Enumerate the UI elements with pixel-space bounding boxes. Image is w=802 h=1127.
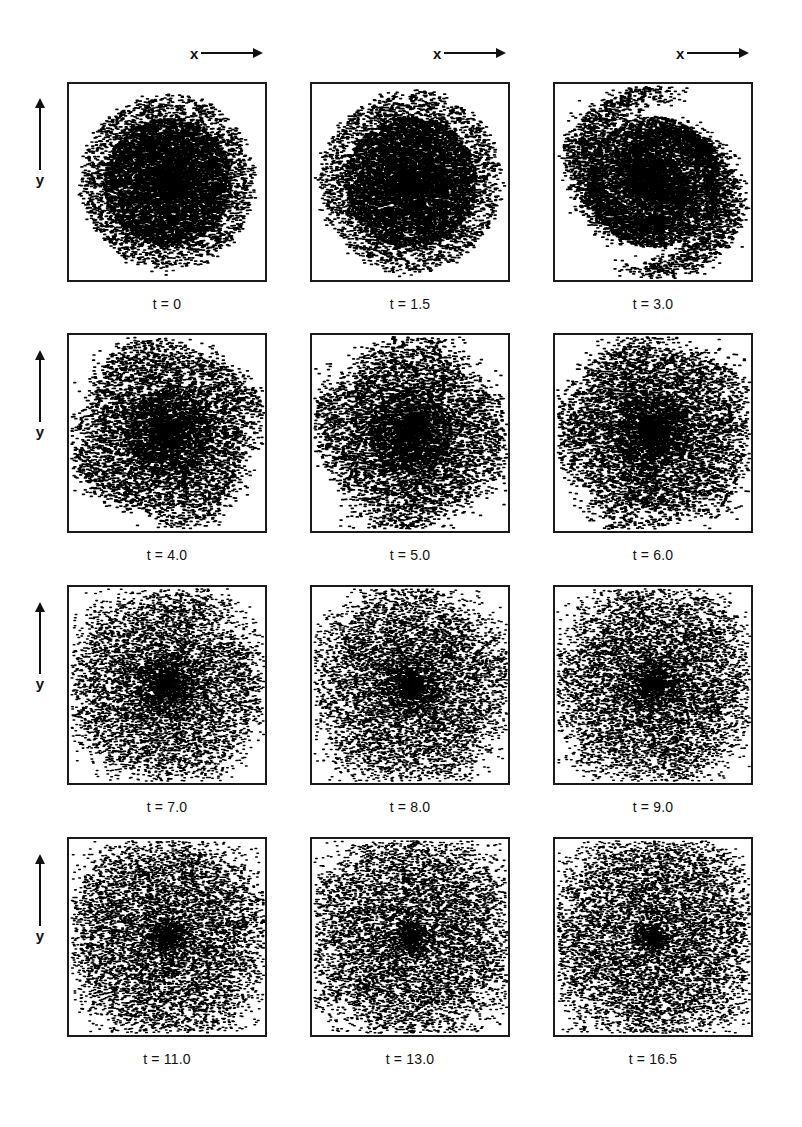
y-axis-label-row2: y — [27, 350, 53, 439]
up-arrow-icon — [34, 98, 46, 170]
panel-caption: t = 5.0 — [310, 547, 510, 563]
y-axis-label-row3: y — [27, 602, 53, 691]
up-arrow-icon — [34, 350, 46, 422]
right-arrow-icon — [444, 48, 506, 58]
panel-caption: t = 7.0 — [67, 799, 267, 815]
panel-caption: t = 1.5 — [310, 296, 510, 312]
simulation-panel — [67, 333, 267, 533]
particle-scatter — [555, 335, 751, 531]
simulation-panel — [310, 333, 510, 533]
up-arrow-icon — [34, 602, 46, 674]
y-axis-label-row4: y — [27, 854, 53, 943]
y-axis-letter: y — [36, 676, 44, 691]
particle-scatter — [555, 587, 751, 783]
panel-caption: t = 13.0 — [310, 1051, 510, 1067]
x-axis-label-col1: x — [190, 42, 263, 64]
x-axis-letter: x — [433, 46, 441, 61]
panel-caption: t = 8.0 — [310, 799, 510, 815]
simulation-panel — [553, 82, 753, 282]
y-axis-label-row1: y — [27, 98, 53, 187]
panel-caption: t = 6.0 — [553, 547, 753, 563]
y-axis-letter: y — [36, 172, 44, 187]
simulation-panel — [553, 333, 753, 533]
simulation-panel — [553, 585, 753, 785]
panel-caption: t = 9.0 — [553, 799, 753, 815]
nbody-simulation-figure: x x x y y y y t = 0t = 1.5t = 3.0t = 4.0… — [0, 0, 802, 1127]
panel-caption: t = 0 — [67, 296, 267, 312]
x-axis-letter: x — [676, 46, 684, 61]
particle-scatter — [312, 587, 508, 783]
y-axis-letter: y — [36, 424, 44, 439]
up-arrow-icon — [34, 854, 46, 926]
simulation-panel — [310, 837, 510, 1037]
x-axis-letter: x — [190, 46, 198, 61]
particle-scatter — [312, 84, 508, 280]
simulation-panel — [553, 837, 753, 1037]
particle-scatter — [69, 587, 265, 783]
simulation-panel — [310, 585, 510, 785]
panel-caption: t = 16.5 — [553, 1051, 753, 1067]
particle-scatter — [69, 839, 265, 1035]
y-axis-letter: y — [36, 928, 44, 943]
particle-scatter — [312, 839, 508, 1035]
simulation-panel — [67, 82, 267, 282]
panel-caption: t = 11.0 — [67, 1051, 267, 1067]
simulation-panel — [67, 837, 267, 1037]
particle-scatter — [69, 335, 265, 531]
panel-caption: t = 4.0 — [67, 547, 267, 563]
right-arrow-icon — [201, 48, 263, 58]
particle-scatter — [555, 839, 751, 1035]
panel-caption: t = 3.0 — [553, 296, 753, 312]
particle-scatter — [312, 335, 508, 531]
simulation-panel — [310, 82, 510, 282]
particle-scatter — [555, 84, 751, 280]
particle-scatter — [69, 84, 265, 280]
right-arrow-icon — [687, 48, 749, 58]
simulation-panel — [67, 585, 267, 785]
x-axis-label-col3: x — [676, 42, 749, 64]
x-axis-label-col2: x — [433, 42, 506, 64]
